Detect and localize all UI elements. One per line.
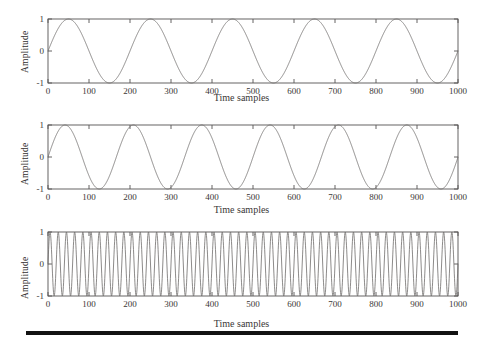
svg-text:1: 1	[40, 14, 45, 24]
plot-panel-1: 01002003004005006007008009001000-101 Amp…	[0, 0, 483, 110]
svg-text:0: 0	[40, 46, 45, 56]
y-axis-label-2: Amplitude	[20, 171, 30, 185]
plot-panel-3: 01002003004005006007008009001000-101 Amp…	[0, 213, 483, 323]
svg-text:100: 100	[82, 299, 96, 309]
svg-text:200: 200	[123, 192, 137, 202]
plot-area-2: 01002003004005006007008009001000-101	[0, 106, 483, 216]
svg-text:400: 400	[205, 192, 219, 202]
svg-text:400: 400	[205, 299, 219, 309]
svg-text:900: 900	[410, 192, 424, 202]
svg-text:1000: 1000	[449, 192, 468, 202]
svg-text:500: 500	[246, 299, 260, 309]
y-axis-label-1: Amplitude	[20, 59, 30, 73]
svg-text:300: 300	[164, 299, 178, 309]
svg-text:1000: 1000	[449, 299, 468, 309]
svg-text:0: 0	[40, 259, 45, 269]
svg-text:1: 1	[40, 227, 45, 237]
svg-text:800: 800	[369, 299, 383, 309]
svg-text:300: 300	[164, 192, 178, 202]
svg-text:-1: -1	[37, 291, 45, 301]
y-axis-label-3: Amplitude	[20, 285, 30, 299]
svg-text:500: 500	[246, 192, 260, 202]
svg-text:100: 100	[82, 192, 96, 202]
bottom-divider-rule	[26, 331, 458, 335]
svg-text:700: 700	[328, 192, 342, 202]
plot-area-3: 01002003004005006007008009001000-101	[0, 213, 483, 323]
figure-three-sine-plots: 01002003004005006007008009001000-101 Amp…	[0, 0, 483, 341]
svg-text:600: 600	[287, 299, 301, 309]
svg-text:0: 0	[46, 299, 51, 309]
x-axis-label-3: Time samples	[0, 318, 483, 329]
svg-text:-1: -1	[37, 184, 45, 194]
svg-text:-1: -1	[37, 78, 45, 88]
plot-panel-2: 01002003004005006007008009001000-101 Amp…	[0, 106, 483, 216]
svg-text:0: 0	[46, 192, 51, 202]
svg-text:800: 800	[369, 192, 383, 202]
svg-text:200: 200	[123, 299, 137, 309]
svg-text:1: 1	[40, 120, 45, 130]
svg-text:700: 700	[328, 299, 342, 309]
svg-text:600: 600	[287, 192, 301, 202]
x-axis-label-1: Time samples	[0, 92, 483, 103]
svg-text:0: 0	[40, 152, 45, 162]
svg-text:900: 900	[410, 299, 424, 309]
